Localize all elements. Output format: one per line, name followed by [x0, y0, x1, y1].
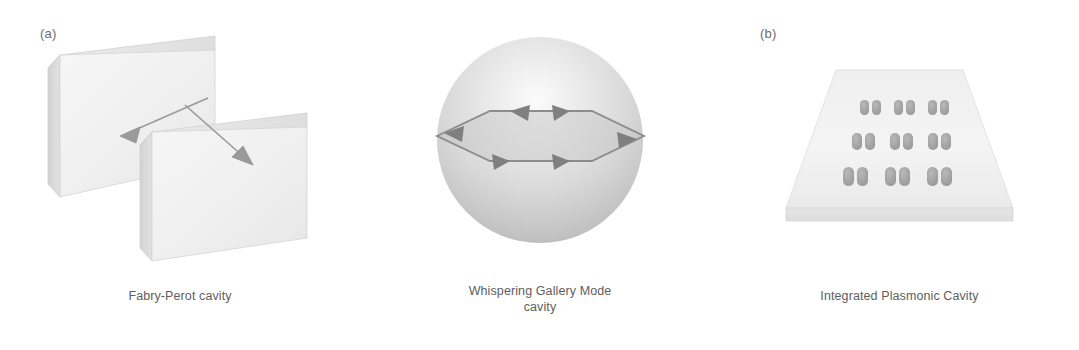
- caption-line-2: cavity: [360, 299, 720, 315]
- optical-cavity-figure: (a) Fabry-Perot cavity: [0, 0, 1079, 350]
- panel-integrated-plasmonic: (c) Integrated Plasmonic Cavity: [720, 0, 1079, 350]
- caption-line-1: Integrated Plasmonic Cavity: [720, 288, 1079, 304]
- integrated-plasmonic-cavity-diagram: [720, 0, 1079, 280]
- caption-whispering-gallery: Whispering Gallery Mode cavity: [360, 283, 720, 315]
- caption-line-1: Whispering Gallery Mode: [360, 283, 720, 299]
- fabry-perot-cavity-diagram: [0, 0, 360, 280]
- whispering-gallery-mode-cavity-diagram: [360, 0, 720, 280]
- caption-integrated-plasmonic: Integrated Plasmonic Cavity: [720, 288, 1079, 304]
- panel-fabry-perot: (a) Fabry-Perot cavity: [0, 0, 360, 350]
- caption-line-1: Fabry-Perot cavity: [0, 288, 360, 304]
- panel-whispering-gallery: (b) Whispering Gallery Mode cavity: [360, 0, 720, 350]
- mirror-slab-right: [140, 113, 307, 261]
- panel-label-a: (a): [40, 26, 57, 41]
- caption-fabry-perot: Fabry-Perot cavity: [0, 288, 360, 304]
